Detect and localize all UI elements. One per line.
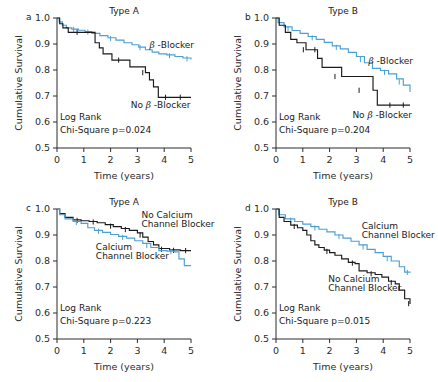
curve-label: Channel Blocker: [362, 230, 435, 240]
y-tick-label: 0.7: [35, 90, 50, 101]
panel-letter: d: [245, 203, 251, 213]
panel-a: aType A0.50.60.70.80.91.0012345Time (yea…: [0, 0, 219, 191]
x-tick-label: 5: [407, 154, 413, 165]
x-tick-label: 4: [161, 154, 167, 165]
x-tick-label: 1: [81, 345, 87, 356]
x-tick-label: 5: [188, 154, 194, 165]
x-tick-label: 1: [81, 154, 87, 165]
panel-letter: a: [26, 12, 32, 22]
y-tick-label: 0.6: [35, 116, 50, 127]
panel-title: Type A: [108, 6, 140, 16]
panel-letter: b: [245, 12, 251, 22]
y-tick-label: 0.6: [254, 116, 269, 127]
x-axis-title: Time (years): [312, 361, 373, 372]
y-tick-label: 0.6: [254, 307, 269, 318]
panel-letter: c: [26, 203, 31, 213]
x-tick-label: 2: [108, 345, 114, 356]
x-tick-label: 1: [300, 154, 306, 165]
chi-square-p-value: Chi-Square p=0.015: [279, 316, 370, 326]
log-rank-label: Log Rank: [279, 303, 321, 313]
y-tick-label: 0.9: [254, 229, 269, 240]
y-tick-label: 0.8: [254, 64, 269, 75]
curve-label: Channel Blocker: [96, 251, 169, 261]
x-tick-label: 5: [407, 345, 413, 356]
y-tick-label: 0.9: [254, 38, 269, 49]
y-tick-label: 0.9: [35, 229, 50, 240]
curve-label: No β -Blocker: [352, 110, 412, 120]
x-tick-label: 3: [134, 154, 140, 165]
x-tick-label: 4: [380, 345, 386, 356]
y-tick-label: 0.7: [254, 90, 269, 101]
x-tick-label: 3: [134, 345, 140, 356]
x-tick-label: 3: [353, 154, 359, 165]
x-tick-label: 0: [54, 345, 60, 356]
x-tick-label: 3: [353, 345, 359, 356]
x-axis-title: Time (years): [93, 170, 154, 181]
x-axis-title: Time (years): [312, 170, 373, 181]
curve-label: β -Blocker: [148, 40, 194, 50]
panel-d: dType B0.50.60.70.80.91.0012345Time (yea…: [219, 191, 438, 382]
x-axis-title: Time (years): [93, 361, 154, 372]
panel-title: Type B: [327, 6, 358, 16]
log-rank-label: Log Rank: [60, 303, 102, 313]
y-axis-title: Cumulative Survival: [232, 35, 243, 131]
curve-label: β -Blocker: [367, 56, 413, 66]
y-tick-label: 0.5: [35, 333, 50, 344]
log-rank-label: Log Rank: [279, 112, 321, 122]
figure-kaplan-meier-panels: aType A0.50.60.70.80.91.0012345Time (yea…: [0, 0, 438, 382]
y-tick-label: 0.6: [35, 307, 50, 318]
x-tick-label: 4: [161, 345, 167, 356]
curve-label: Channel Blocker: [141, 219, 214, 229]
y-axis-title: Cumulative Survival: [232, 226, 243, 322]
y-tick-label: 0.7: [254, 281, 269, 292]
y-tick-label: 0.5: [254, 333, 269, 344]
y-tick-label: 1.0: [35, 203, 50, 214]
x-tick-label: 2: [327, 345, 333, 356]
survival-curve: [276, 209, 410, 273]
log-rank-label: Log Rank: [60, 112, 102, 122]
y-tick-label: 1.0: [35, 12, 50, 23]
panel-c: cType A0.50.60.70.80.91.0012345Time (yea…: [0, 191, 219, 382]
chi-square-p-value: Chi-Square p=0.024: [60, 125, 152, 135]
x-tick-label: 4: [380, 154, 386, 165]
chi-square-p-value: Chi-Square p=0.204: [279, 125, 371, 135]
y-tick-label: 0.8: [35, 255, 50, 266]
panel-title: Type A: [108, 197, 140, 207]
x-tick-label: 2: [108, 154, 114, 165]
y-tick-label: 0.9: [35, 38, 50, 49]
curve-label: Channel Blocker: [328, 283, 401, 293]
panel-title: Type B: [327, 197, 358, 207]
x-tick-label: 0: [273, 154, 279, 165]
panel-b: bType B0.50.60.70.80.91.0012345Time (yea…: [219, 0, 438, 191]
y-axis-title: Cumulative Survival: [13, 35, 24, 131]
x-tick-label: 0: [273, 345, 279, 356]
y-tick-label: 0.7: [35, 281, 50, 292]
x-tick-label: 1: [300, 345, 306, 356]
chi-square-p-value: Chi-Square p=0.223: [60, 316, 151, 326]
y-tick-label: 1.0: [254, 203, 269, 214]
x-tick-label: 2: [327, 154, 333, 165]
y-tick-label: 0.8: [254, 255, 269, 266]
x-tick-label: 5: [188, 345, 194, 356]
y-tick-label: 0.5: [254, 142, 269, 153]
y-tick-label: 0.8: [35, 64, 50, 75]
x-tick-label: 0: [54, 154, 60, 165]
survival-curve: [57, 18, 191, 60]
y-tick-label: 0.5: [35, 142, 50, 153]
y-tick-label: 1.0: [254, 12, 269, 23]
y-axis-title: Cumulative Survival: [13, 226, 24, 322]
curve-label: No β -Blocker: [131, 100, 191, 110]
